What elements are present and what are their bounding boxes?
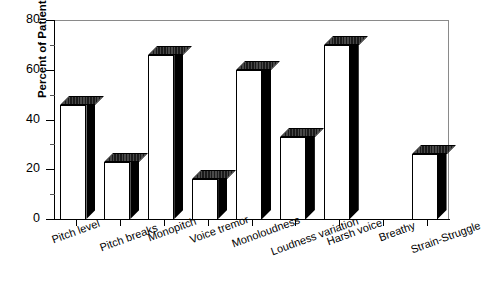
bar-loudness-variation — [280, 128, 306, 219]
bar-pitch-level — [60, 96, 86, 219]
bar-front-face — [280, 137, 306, 219]
bar-front-face — [192, 179, 218, 219]
x-label-strain-struggle: Strain-Struggle — [409, 219, 482, 255]
bar-side-face — [130, 162, 139, 219]
bar-front-face — [104, 162, 130, 219]
y-tick-label-20: 20 — [0, 161, 40, 175]
y-tick-label-40: 40 — [0, 112, 40, 126]
bar-front-face — [412, 154, 438, 219]
x-tick-3 — [208, 219, 209, 226]
bar-voice-tremor — [192, 170, 218, 219]
y-tick-60 — [46, 70, 55, 71]
bar-front-face — [324, 45, 350, 219]
y-tick-label-80: 80 — [0, 12, 40, 26]
bar-side-face — [174, 55, 183, 219]
y-tick-40 — [46, 120, 55, 121]
bar-monopitch — [148, 46, 174, 219]
y-tick-0 — [46, 219, 55, 220]
y-minor-tick-70 — [50, 45, 55, 46]
x-tick-4 — [252, 219, 253, 226]
bar-strain-struggle — [412, 145, 438, 219]
bar-monoloudness — [236, 61, 262, 219]
bar-side-face — [262, 70, 271, 219]
y-minor-tick-50 — [50, 95, 55, 96]
y-tick-label-60: 60 — [0, 62, 40, 76]
bar-front-face — [148, 55, 174, 219]
x-tick-1 — [120, 219, 121, 226]
bar-side-face — [438, 154, 447, 219]
y-tick-80 — [46, 20, 55, 21]
bar-harsh-voice — [324, 36, 350, 219]
bar-side-face — [306, 137, 315, 219]
y-tick-label-0: 0 — [0, 211, 40, 225]
bar-pitch-breaks — [104, 153, 130, 219]
y-tick-20 — [46, 169, 55, 170]
x-tick-8 — [427, 219, 428, 226]
bar-front-face — [236, 70, 262, 219]
bar-side-face — [86, 105, 95, 219]
bar-side-face — [350, 45, 359, 219]
bar-front-face — [60, 105, 86, 219]
y-minor-tick-30 — [50, 144, 55, 145]
x-tick-7 — [383, 219, 384, 226]
y-minor-tick-10 — [50, 194, 55, 195]
